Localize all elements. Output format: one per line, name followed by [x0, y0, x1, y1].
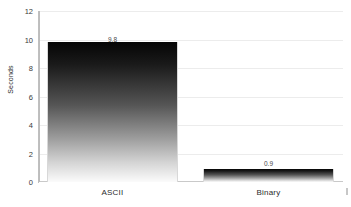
x-label-binary: Binary: [257, 188, 281, 197]
y-tick-label: 10: [25, 35, 33, 44]
x-axis-category-labels: ASCII Binary: [39, 188, 342, 204]
x-label-ascii: ASCII: [102, 188, 124, 197]
y-tick-label: 12: [25, 7, 33, 16]
y-tick-label: 0: [29, 178, 33, 187]
y-tick-label: 4: [29, 121, 33, 130]
bar-ascii[interactable]: [47, 42, 178, 182]
y-axis-tick-labels: 12 10 8 6 4 2 0: [0, 0, 37, 207]
y-tick-label: 6: [29, 92, 33, 101]
y-tick-label: 2: [29, 149, 33, 158]
bar-chart: Seconds 12 10 8 6 4 2 0 9.8 0.9 ASCII Bi…: [0, 0, 351, 207]
bar-value-binary: 0.9: [264, 160, 273, 167]
y-tick-label: 8: [29, 64, 33, 73]
right-edge-artifact: [346, 188, 348, 195]
bars-layer: 9.8 0.9: [39, 11, 342, 182]
bar-value-ascii: 9.8: [108, 36, 117, 43]
bar-binary[interactable]: [203, 169, 334, 182]
